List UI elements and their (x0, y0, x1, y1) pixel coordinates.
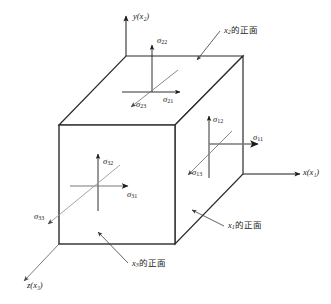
sigma-31-label: σ31 (127, 190, 137, 199)
sigma-33-label: σ33 (34, 212, 44, 221)
sigma-23-label: σ23 (136, 100, 146, 109)
z-axis-line (24, 244, 59, 281)
y-axis-label: y(x₂) (133, 12, 149, 21)
stress-cube-diagram: y(x₂) x(x₁) z(x₃) σ22 σ21 σ23 σ12 σ11 σ1… (0, 0, 331, 304)
sigma-32-label: σ32 (103, 157, 113, 166)
sigma-21-label: σ21 (163, 95, 173, 104)
z-axis-label: z(x₃) (27, 281, 43, 290)
sigma-12-label: σ12 (213, 115, 223, 124)
sigma-22-label: σ22 (157, 36, 167, 45)
annotation-x3-face: x3的正面 (132, 259, 166, 268)
annotation-x1-face: x1的正面 (228, 221, 262, 230)
cube-edges (59, 56, 243, 244)
sigma-11-label: σ11 (253, 133, 263, 142)
x-axis-label: x(x₁) (303, 168, 319, 177)
cube-front-face (59, 125, 175, 244)
sigma-13-label: σ13 (192, 168, 202, 177)
annotation-x2-face: x2的正面 (224, 26, 258, 35)
